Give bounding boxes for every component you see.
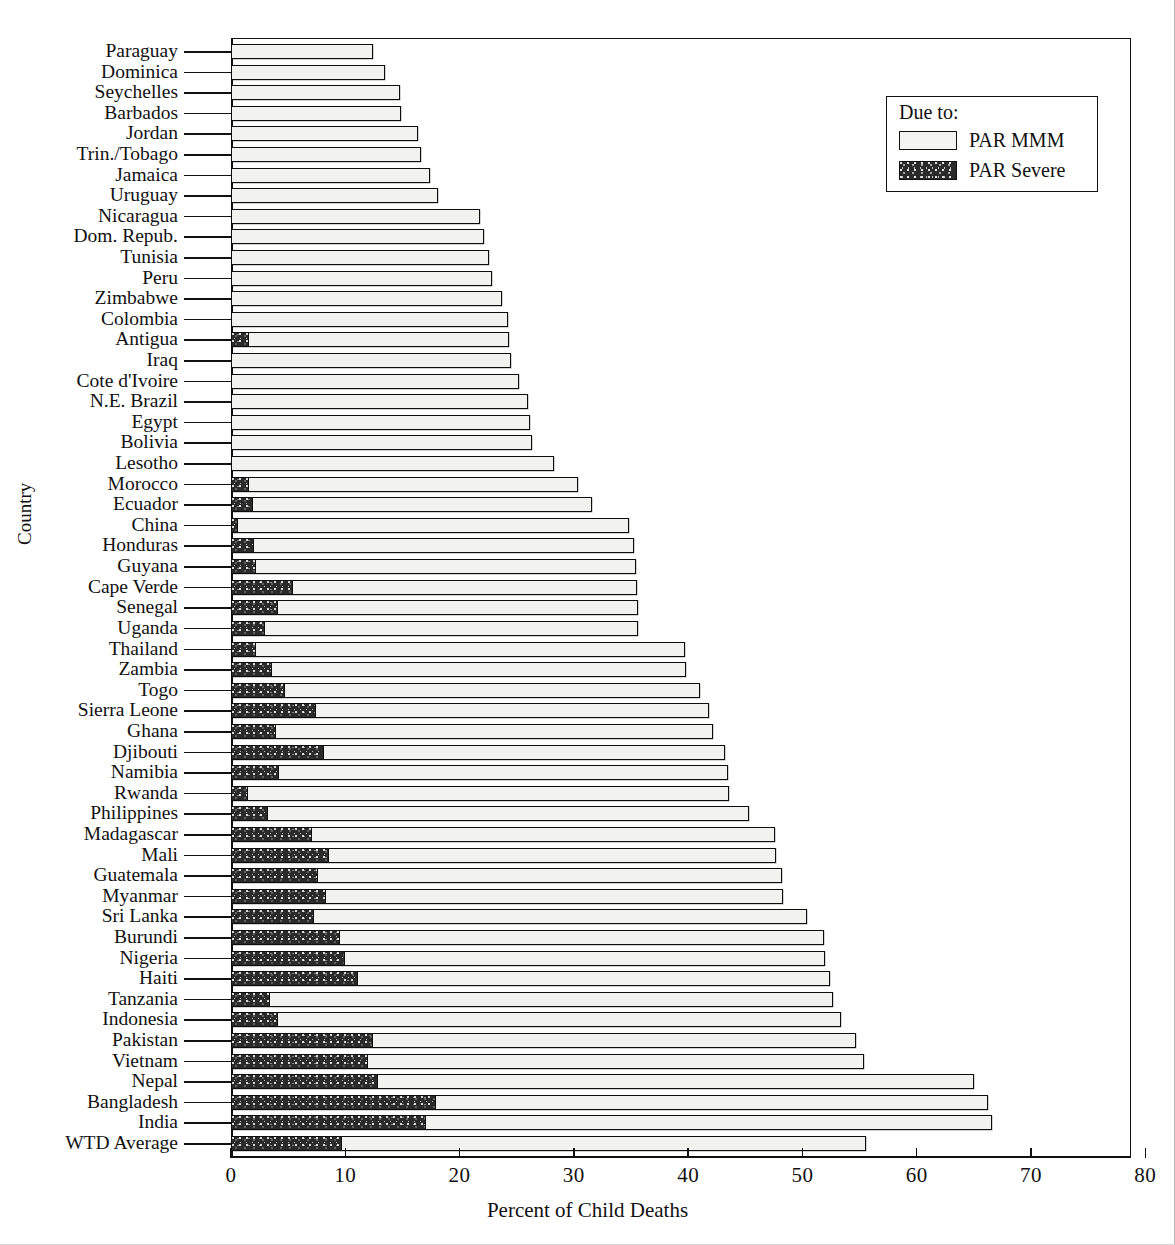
y-tick-label: India [60,1111,178,1133]
x-tick-40 [687,1148,689,1158]
y-tick-label: Myanmar [60,885,178,907]
y-tick-leader [184,339,231,341]
y-tick-leader [184,401,231,403]
legend-swatch-par-mmm [899,131,957,150]
y-tick-leader [184,772,231,774]
y-tick-leader [184,257,231,259]
y-tick-label: N.E. Brazil [60,390,178,412]
bar-par-severe [231,600,278,615]
bar-par-severe [231,703,316,718]
chart-figure: ParaguayDominicaSeychellesBarbadosJordan… [0,0,1175,1245]
bar-par-mmm [231,1012,841,1027]
y-tick-leader [184,731,231,733]
y-tick-label: Cote d'Ivoire [60,370,178,392]
y-tick-label: Sierra Leone [60,699,178,721]
y-tick-label: Egypt [60,411,178,433]
y-tick-label: Dominica [60,61,178,83]
y-tick-leader [184,916,231,918]
bar-par-mmm [231,271,492,286]
y-tick-leader [184,1061,231,1063]
y-tick-label: Djibouti [60,741,178,763]
bar-par-mmm [231,353,511,368]
y-tick-label: Lesotho [60,452,178,474]
x-tick-10 [345,1148,347,1158]
bar-par-severe [231,580,293,595]
bar-par-mmm [231,909,807,924]
y-tick-label: Philippines [60,802,178,824]
bar-par-mmm [231,538,634,553]
y-tick-label: Tanzania [60,988,178,1010]
y-tick-label: Mali [60,844,178,866]
bar-par-severe [231,683,285,698]
x-tick-70 [1030,1148,1032,1158]
x-tick-80 [1145,1148,1147,1158]
bar-par-mmm [231,724,713,739]
plot-area [231,38,1131,1156]
bar-par-severe [231,786,248,801]
bar-par-severe [231,1095,436,1110]
bar-par-severe [231,1074,378,1089]
bar-par-mmm [231,765,728,780]
bar-par-severe [231,848,329,863]
x-tick-label-60: 60 [887,1163,947,1188]
y-tick-label: Togo [60,679,178,701]
y-tick-leader [184,793,231,795]
y-tick-leader [184,587,231,589]
y-tick-label: Pakistan [60,1029,178,1051]
y-tick-leader [184,813,231,815]
y-tick-leader [184,360,231,362]
y-tick-leader [184,752,231,754]
bar-par-mmm [231,477,578,492]
y-tick-label: Barbados [60,102,178,124]
y-tick-leader [184,92,231,94]
x-tick-0 [230,1148,232,1158]
y-tick-label: Uruguay [60,184,178,206]
x-tick-label-20: 20 [430,1163,490,1188]
bar-par-mmm [231,229,484,244]
y-tick-label: Burundi [60,926,178,948]
bar-par-mmm [231,559,636,574]
y-tick-leader [184,319,231,321]
bar-par-severe [231,909,314,924]
y-tick-leader [184,236,231,238]
y-tick-leader [184,154,231,156]
y-tick-leader [184,566,231,568]
y-tick-label: Trin./Tobago [60,143,178,165]
x-tick-label-40: 40 [658,1163,718,1188]
legend-label-par-mmm: PAR MMM [969,129,1064,152]
y-tick-leader [184,381,231,383]
y-tick-leader [184,999,231,1001]
y-tick-label: Nicaragua [60,205,178,227]
y-tick-leader [184,298,231,300]
y-tick-leader [184,1040,231,1042]
y-tick-leader [184,855,231,857]
y-tick-leader [184,442,231,444]
bar-par-severe [231,889,326,904]
bar-par-mmm [231,992,833,1007]
bar-par-mmm [231,44,373,59]
y-tick-leader [184,1122,231,1124]
bar-par-mmm [231,394,528,409]
bar-par-mmm [231,332,509,347]
bar-par-severe [231,642,256,657]
y-tick-leader [184,1081,231,1083]
bar-par-severe [231,827,312,842]
y-tick-leader [184,649,231,651]
bar-par-mmm [231,456,554,471]
bar-par-severe [231,621,265,636]
bar-par-mmm [231,600,638,615]
y-tick-label: Bangladesh [60,1091,178,1113]
y-tick-label: Zambia [60,658,178,680]
y-tick-label: Ghana [60,720,178,742]
x-tick-label-10: 10 [315,1163,375,1188]
y-tick-leader [184,834,231,836]
y-tick-leader [184,51,231,53]
bar-par-severe [231,1136,342,1151]
y-tick-leader [184,545,231,547]
bar-par-mmm [231,374,519,389]
y-tick-leader [184,607,231,609]
x-tick-label-70: 70 [1001,1163,1061,1188]
bar-par-severe [231,868,318,883]
y-tick-label: Colombia [60,308,178,330]
bar-par-severe [231,477,249,492]
